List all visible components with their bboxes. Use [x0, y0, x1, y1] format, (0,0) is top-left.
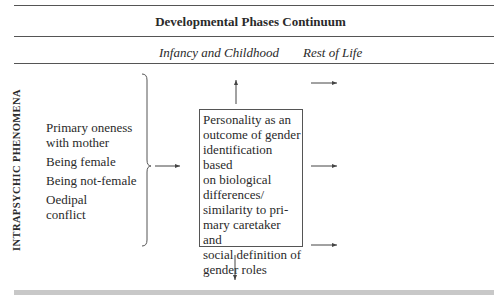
bottom-rule	[14, 290, 494, 295]
diagram-connectors	[0, 0, 501, 298]
curly-brace-icon	[142, 74, 151, 246]
